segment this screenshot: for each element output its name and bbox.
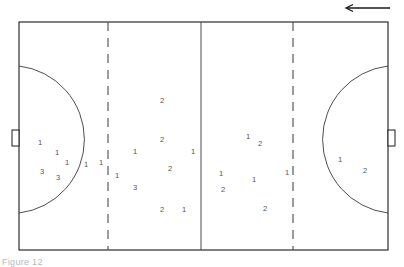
- player-label: 1: [338, 155, 342, 164]
- player-label: 1: [219, 169, 223, 178]
- player-label: 1: [99, 158, 103, 167]
- player-label: 3: [40, 167, 44, 176]
- player-label: 2: [160, 96, 164, 105]
- player-label: 1: [133, 147, 137, 156]
- player-label: 2: [363, 166, 367, 175]
- left-goal: [12, 130, 19, 146]
- player-label: 1: [38, 138, 42, 147]
- player-label: 1: [65, 158, 69, 167]
- player-label: 1: [182, 205, 186, 214]
- player-label: 2: [168, 164, 172, 173]
- attack-direction-arrow: [346, 5, 390, 12]
- player-label: 3: [56, 173, 60, 182]
- figure-caption: Figure 12: [2, 257, 43, 267]
- player-label: 1: [246, 132, 250, 141]
- player-labels-group: 1111111111111122222222333: [38, 96, 367, 214]
- player-label: 3: [133, 183, 137, 192]
- player-label: 2: [160, 135, 164, 144]
- player-label: 1: [84, 160, 88, 169]
- player-label: 2: [160, 205, 164, 214]
- right-goal-area-arc: [323, 66, 388, 213]
- court-boundary: [19, 22, 388, 250]
- player-label: 2: [221, 185, 225, 194]
- player-label: 1: [285, 168, 289, 177]
- player-label: 1: [191, 147, 195, 156]
- player-label: 1: [252, 175, 256, 184]
- player-label: 2: [258, 139, 262, 148]
- right-goal: [388, 130, 395, 146]
- player-label: 2: [263, 204, 267, 213]
- player-label: 1: [115, 171, 119, 180]
- player-label: 1: [55, 148, 59, 157]
- left-goal-area-arc: [19, 66, 84, 213]
